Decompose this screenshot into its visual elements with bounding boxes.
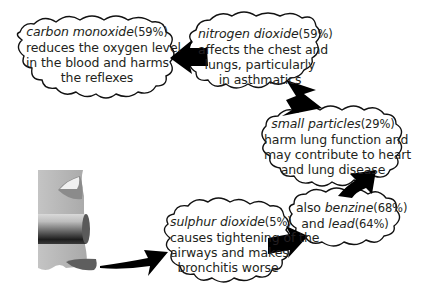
cloud-sulphur-dioxide: sulphur dioxide(5%) causes tightening of… xyxy=(170,214,286,275)
pollutant-name: small particles xyxy=(271,116,360,131)
cloud-small-particles: small particles(29%) harm lung function … xyxy=(264,116,402,177)
pollutant-name: sulphur dioxide xyxy=(170,214,265,229)
effect-line: affects the chest and xyxy=(198,42,322,57)
effect-line: reduces the oxygen level xyxy=(26,40,168,55)
pollutant-percent: (68%) xyxy=(373,201,407,215)
cloud-carbon-monoxide: carbon monoxide(59%) reduces the oxygen … xyxy=(26,24,168,85)
pollutant-percent-2: (64%) xyxy=(355,217,389,231)
pollutant-percent: (5%) xyxy=(265,215,292,229)
pollutant-heading: also benzine(68%) xyxy=(296,200,394,216)
pollutant-name: carbon monoxide xyxy=(26,24,134,39)
pollutant-heading: small particles(29%) xyxy=(264,116,402,132)
pollutant-heading: sulphur dioxide(5%) xyxy=(170,214,286,230)
pollutant-heading: carbon monoxide(59%) xyxy=(26,24,168,40)
pollutant-name: benzine xyxy=(325,200,374,215)
cloud-benzine-lead: also benzine(68%) and lead(64%) xyxy=(296,200,394,232)
pollutant-percent: (59%) xyxy=(299,27,333,41)
pollutant-name: nitrogen dioxide xyxy=(198,26,299,41)
effect-line: in the blood and harms xyxy=(26,55,168,70)
effect-line: lungs, particularly xyxy=(198,57,322,72)
arrow-pipe-to-sulphur xyxy=(100,250,168,276)
effect-line: airways and makes xyxy=(170,245,286,260)
effect-line: harm lung function and xyxy=(264,132,402,147)
effect-line: in asthmatics xyxy=(198,72,322,87)
effect-line: and lung disease xyxy=(264,162,402,177)
pollution-flow-diagram: carbon monoxide(59%) reduces the oxygen … xyxy=(0,0,436,303)
effect-line: may contribute to heart xyxy=(264,147,402,162)
prefix-text: also xyxy=(296,200,321,215)
pollutant-heading: nitrogen dioxide(59%) xyxy=(198,26,322,42)
effect-line: the reflexes xyxy=(26,70,168,85)
pollutant-percent: (59%) xyxy=(134,25,168,39)
pollutant-percent: (29%) xyxy=(361,117,395,131)
cloud-nitrogen-dioxide: nitrogen dioxide(59%) affects the chest … xyxy=(198,26,322,87)
effect-line: causes tightening of the xyxy=(170,230,286,245)
connector-text: and xyxy=(301,216,324,231)
pollutant-name-2: lead xyxy=(328,216,354,231)
effect-line: bronchitis worse xyxy=(170,260,286,275)
